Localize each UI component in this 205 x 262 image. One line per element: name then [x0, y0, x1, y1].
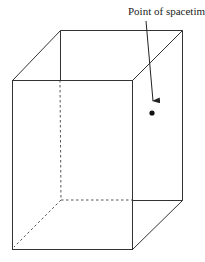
- front-face: [13, 81, 133, 250]
- visible-edges: [13, 31, 183, 250]
- annotation-label: Point of spacetime: [128, 5, 205, 17]
- edge-bottom-right-depth: [133, 201, 183, 250]
- edge-top-left-depth: [13, 31, 61, 81]
- edge-bottom-left-depth: [14, 200, 61, 247]
- hidden-edges: [14, 80, 132, 247]
- edge-top-right-depth: [133, 31, 183, 81]
- spacetime-point: [149, 110, 154, 115]
- edge-back-left-vertical: [60, 80, 61, 200]
- box-diagram: [0, 0, 205, 262]
